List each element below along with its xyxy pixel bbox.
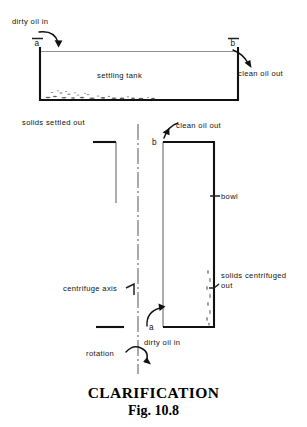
dirty-oil-in-arrow-tank: [39, 32, 62, 48]
figure-number: Fig. 10.8: [128, 403, 179, 418]
settled-solids-sediment: [46, 90, 155, 99]
point-a-label-centrifuge: a: [149, 323, 154, 332]
clean-oil-out-arrow-tank: [233, 50, 252, 68]
centrifuge-diagram: b clean oil out solids settled out bowl …: [22, 118, 286, 374]
clean-oil-out-label-centrifuge: clean oil out: [176, 121, 222, 130]
clean-oil-out-label-tank: clean oil out: [238, 69, 284, 78]
figure-title: CLARIFICATION: [88, 384, 220, 401]
settling-tank-diagram: a b dirty oil in clean oil out settling …: [12, 17, 284, 100]
centrifuged-solids-stipple: [206, 270, 211, 326]
dirty-oil-in-label-centrifuge: dirty oil in: [144, 338, 180, 347]
point-a-label-tank: a: [35, 39, 40, 48]
settling-tank-body-label: settling tank: [97, 71, 142, 80]
figure-canvas: a b dirty oil in clean oil out settling …: [0, 0, 307, 427]
centrifuge-axis-leader: [126, 284, 134, 295]
solids-settled-out-label: solids settled out: [22, 118, 85, 127]
bowl-outline: [163, 142, 214, 327]
dirty-oil-in-label-tank: dirty oil in: [12, 17, 48, 26]
clarification-figure: a b dirty oil in clean oil out settling …: [0, 0, 307, 427]
figure-title-block: CLARIFICATION Fig. 10.8: [88, 384, 220, 418]
solids-centrifuged-label-line1: solids centrifuged: [221, 271, 286, 280]
point-b-label-centrifuge: b: [152, 138, 157, 147]
solids-centrifuged-label-line2: out: [221, 281, 233, 290]
point-b-label-tank: b: [231, 39, 236, 48]
centrifuge-axis-label: centrifuge axis: [63, 284, 117, 293]
bowl-label: bowl: [221, 192, 238, 201]
rotation-label: rotation: [86, 349, 114, 358]
